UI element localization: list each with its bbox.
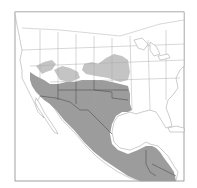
range-map xyxy=(0,0,197,188)
